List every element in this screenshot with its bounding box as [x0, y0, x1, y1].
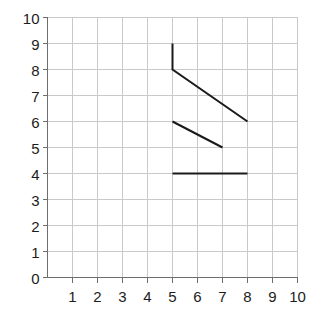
x-tick-label-7: 7	[218, 289, 226, 304]
x-tick-label-2: 2	[93, 289, 101, 304]
y-tick-label-6: 6	[8, 114, 40, 129]
coordinate-grid-figure: 012345678910 12345678910	[0, 0, 317, 314]
y-tick-label-0: 0	[8, 270, 40, 285]
y-tick-label-3: 3	[8, 192, 40, 207]
data-polylines	[173, 44, 248, 174]
y-tick-label-9: 9	[8, 36, 40, 51]
y-tick-label-5: 5	[8, 140, 40, 155]
plot-canvas	[0, 0, 317, 314]
y-tick-label-2: 2	[8, 218, 40, 233]
data-line-segment-upper	[173, 44, 248, 122]
x-tick-label-4: 4	[143, 289, 151, 304]
x-tick-label-3: 3	[118, 289, 126, 304]
tick-marks	[43, 18, 298, 283]
x-tick-label-10: 10	[289, 289, 306, 304]
x-tick-label-6: 6	[193, 289, 201, 304]
x-tick-label-8: 8	[243, 289, 251, 304]
x-tick-label-1: 1	[68, 289, 76, 304]
x-tick-label-5: 5	[168, 289, 176, 304]
y-tick-label-1: 1	[8, 244, 40, 259]
y-tick-label-10: 10	[8, 10, 40, 25]
x-tick-label-9: 9	[268, 289, 276, 304]
y-tick-label-7: 7	[8, 88, 40, 103]
y-tick-label-8: 8	[8, 62, 40, 77]
y-tick-label-4: 4	[8, 166, 40, 181]
